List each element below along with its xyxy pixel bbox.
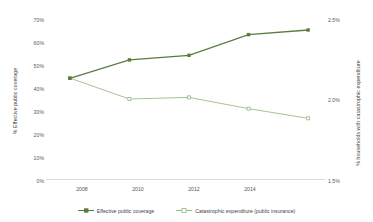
data-point-marker xyxy=(128,58,131,61)
data-point-marker xyxy=(247,107,250,110)
data-point-marker xyxy=(247,33,250,36)
legend-marker-icon xyxy=(78,207,94,214)
data-point-marker xyxy=(187,96,190,99)
legend-marker-icon xyxy=(176,207,192,214)
plot-area xyxy=(0,0,373,222)
legend-item-effective-public-coverage[interactable]: Effective public coverage xyxy=(78,207,155,214)
data-point-marker xyxy=(307,117,310,120)
data-point-marker xyxy=(128,98,131,101)
series-catastrophic-expenditure xyxy=(68,77,309,120)
data-point-marker xyxy=(187,54,190,57)
chart-container: % Effective public coverage % households… xyxy=(0,0,373,222)
series-effective-public-coverage xyxy=(68,28,310,80)
legend-item-catastrophic-expenditure[interactable]: Catastrophic expenditure (public insuran… xyxy=(176,207,295,214)
data-point-marker xyxy=(68,77,71,80)
legend-label: Effective public coverage xyxy=(97,208,155,214)
chart-legend: Effective public coverage Catastrophic e… xyxy=(0,207,373,214)
legend-label: Catastrophic expenditure (public insuran… xyxy=(195,208,295,214)
data-point-marker xyxy=(306,28,309,31)
